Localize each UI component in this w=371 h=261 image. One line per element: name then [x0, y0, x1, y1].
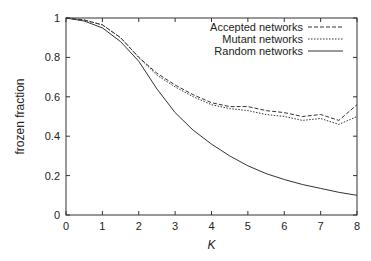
- y-tick-label: 0: [54, 209, 60, 221]
- x-tick-label: 1: [99, 220, 105, 232]
- y-axis-label: frozen fraction: [13, 78, 27, 154]
- legend-label: Random networks: [214, 45, 303, 57]
- line-chart: 01234567800.20.40.60.81Kfrozen fraction …: [0, 0, 371, 261]
- axes: 01234567800.20.40.60.81Kfrozen fraction: [13, 12, 360, 252]
- x-axis-label: K: [207, 238, 216, 252]
- y-tick-label: 1: [54, 12, 60, 24]
- y-tick-label: 0.6: [45, 91, 60, 103]
- x-tick-label: 0: [63, 220, 69, 232]
- x-tick-label: 2: [136, 220, 142, 232]
- y-tick-label: 0.8: [45, 51, 60, 63]
- x-tick-label: 4: [208, 220, 214, 232]
- legend-label: Accepted networks: [210, 21, 303, 33]
- x-tick-label: 7: [318, 220, 324, 232]
- series-line-random-networks: [66, 18, 357, 195]
- x-tick-label: 6: [281, 220, 287, 232]
- plot-frame: [66, 18, 357, 215]
- series-lines: [66, 18, 357, 195]
- x-tick-label: 8: [354, 220, 360, 232]
- y-tick-label: 0.4: [45, 130, 60, 142]
- legend-label: Mutant networks: [222, 33, 303, 45]
- x-tick-label: 5: [245, 220, 251, 232]
- legend: Accepted networksMutant networksRandom n…: [210, 21, 343, 57]
- y-tick-label: 0.2: [45, 170, 60, 182]
- x-tick-label: 3: [172, 220, 178, 232]
